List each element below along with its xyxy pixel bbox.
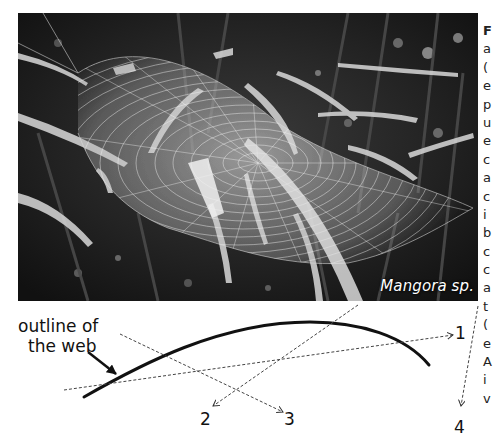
direction-label-1: 1 (455, 323, 466, 343)
caption-char: t (483, 298, 497, 316)
direction-line-3 (120, 334, 283, 412)
outline-label-line2: the web (18, 336, 98, 356)
species-label: Mangora sp. (380, 277, 474, 295)
caption-char: ( (483, 316, 497, 334)
outline-label-line1: outline of (18, 316, 98, 336)
direction-label-2: 2 (200, 409, 211, 429)
caption-char: v (483, 390, 497, 408)
caption-char: c (483, 188, 497, 206)
outline-of-web-label: outline of the web (18, 316, 98, 356)
direction-line-2 (213, 305, 358, 406)
caption-char: c (483, 151, 497, 169)
caption-char: i (483, 371, 497, 389)
caption-char: b (483, 224, 497, 242)
direction-label-4: 4 (454, 417, 465, 437)
web-outline-curve (84, 322, 429, 397)
caption-char: e (483, 335, 497, 353)
direction-line-4 (461, 306, 478, 406)
web-photo: Mangora sp. (18, 13, 478, 301)
caption-char: F (483, 22, 497, 40)
caption-char: e (483, 77, 497, 95)
caption-char: i (483, 206, 497, 224)
caption-char: c (483, 261, 497, 279)
direction-line-1 (64, 335, 453, 390)
caption-text-fragment: F a ( e p u e c a c i b c c a t ( e A i … (483, 22, 497, 408)
caption-char: ( (483, 59, 497, 77)
caption-char: u (483, 114, 497, 132)
caption-char: A (483, 353, 497, 371)
direction-label-3: 3 (284, 409, 295, 429)
caption-char: a (483, 40, 497, 58)
caption-char: p (483, 96, 497, 114)
figure: Mangora sp. outline of the web 1 2 3 4 F… (0, 0, 497, 443)
photo-illustration (18, 13, 478, 301)
caption-char: a (483, 279, 497, 297)
caption-char: c (483, 243, 497, 261)
caption-char: a (483, 169, 497, 187)
caption-char: e (483, 132, 497, 150)
